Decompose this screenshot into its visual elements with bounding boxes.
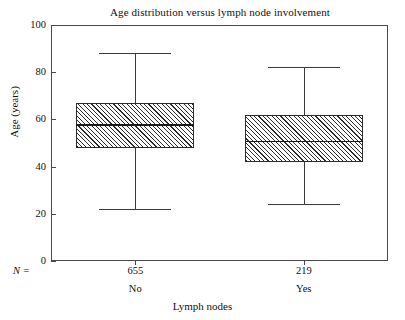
y-axis-title: Age (years) (8, 52, 20, 172)
y-tick-mark (51, 167, 56, 168)
y-tick-mark (51, 119, 56, 120)
x-category-label: Yes (264, 283, 344, 294)
lower-whisker-cap (99, 209, 171, 210)
boxplot-figure: Age distribution versus lymph node invol… (0, 0, 405, 320)
y-tick-label: 100 (20, 20, 46, 30)
y-tick-label: 80 (20, 67, 46, 77)
chart-title: Age distribution versus lymph node invol… (50, 6, 390, 18)
y-tick-mark (51, 214, 56, 215)
y-tick-mark (51, 25, 56, 26)
y-tick-label: 20 (20, 209, 46, 219)
median-line (245, 141, 363, 142)
upper-whisker-line (135, 53, 136, 103)
upper-whisker-line (304, 67, 305, 114)
x-count-label: 655 (95, 265, 175, 276)
upper-whisker-cap (268, 67, 340, 68)
lower-whisker-cap (268, 204, 340, 205)
y-tick-label: 40 (20, 162, 46, 172)
upper-whisker-cap (99, 53, 171, 54)
lower-whisker-line (304, 162, 305, 204)
iqr-box (245, 115, 363, 162)
lower-whisker-line (135, 148, 136, 209)
y-tick-label: 60 (20, 114, 46, 124)
y-tick-mark (51, 261, 56, 262)
x-axis-title: Lymph nodes (0, 300, 405, 312)
y-tick-mark (51, 72, 56, 73)
n-equals-label: N = (13, 265, 30, 276)
median-line (76, 124, 194, 125)
x-count-label: 219 (264, 265, 344, 276)
x-category-label: No (95, 283, 175, 294)
